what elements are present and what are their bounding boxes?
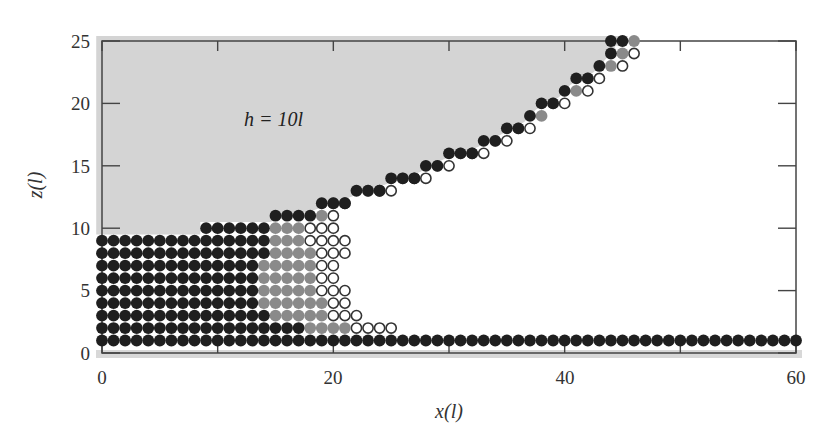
interstitial-highlight — [256, 295, 260, 299]
grey-bead — [316, 310, 328, 322]
black-bead — [131, 310, 143, 322]
black-bead — [108, 272, 120, 284]
interstitial-highlight — [210, 295, 214, 299]
open-bead — [317, 248, 327, 258]
black-bead — [200, 310, 212, 322]
open-bead — [328, 261, 338, 271]
black-bead — [154, 310, 166, 322]
grey-bead — [617, 48, 629, 60]
open-bead — [351, 323, 361, 333]
open-bead — [363, 323, 373, 333]
black-bead — [513, 122, 525, 134]
black-bead — [142, 335, 154, 347]
interstitial-highlight — [199, 332, 203, 336]
interstitial-highlight — [118, 332, 122, 336]
interstitial-highlight — [199, 258, 203, 262]
grey-bead — [281, 247, 293, 259]
black-bead — [177, 335, 189, 347]
y-axis-label: z(l) — [24, 171, 47, 199]
interstitial-highlight — [152, 283, 156, 287]
open-bead — [328, 298, 338, 308]
black-bead — [177, 235, 189, 247]
interstitial-highlight — [152, 295, 156, 299]
interstitial-highlight — [187, 258, 191, 262]
black-bead — [108, 310, 120, 322]
open-bead — [421, 173, 431, 183]
black-bead — [142, 272, 154, 284]
x-tick-60: 60 — [787, 367, 806, 388]
black-bead — [489, 335, 501, 347]
grey-bead — [327, 322, 339, 334]
interstitial-highlight — [291, 270, 295, 274]
black-bead — [96, 272, 108, 284]
black-bead — [593, 60, 605, 72]
grey-bead — [316, 210, 328, 222]
x-tick-40: 40 — [556, 367, 575, 388]
black-bead — [142, 285, 154, 297]
black-bead — [478, 335, 490, 347]
interstitial-highlight — [141, 332, 145, 336]
black-bead — [443, 335, 455, 347]
grey-bead — [270, 260, 282, 272]
black-bead — [189, 322, 201, 334]
black-bead — [212, 335, 224, 347]
black-bead — [258, 247, 270, 259]
interstitial-highlight — [164, 332, 168, 336]
interstitial-highlight — [233, 295, 237, 299]
black-bead — [223, 285, 235, 297]
black-bead — [142, 247, 154, 259]
black-bead — [246, 247, 258, 259]
black-bead — [166, 310, 178, 322]
interstitial-highlight — [314, 320, 318, 324]
interstitial-highlight — [245, 233, 249, 237]
black-bead — [327, 335, 339, 347]
grey-bead — [281, 222, 293, 234]
black-bead — [524, 110, 536, 122]
grey-bead — [293, 247, 305, 259]
black-bead — [258, 322, 270, 334]
black-bead — [119, 335, 131, 347]
interstitial-highlight — [141, 295, 145, 299]
open-bead — [317, 223, 327, 233]
black-bead — [246, 310, 258, 322]
grey-bead — [605, 60, 617, 72]
black-bead — [108, 247, 120, 259]
black-bead — [108, 322, 120, 334]
interstitial-highlight — [233, 283, 237, 287]
black-bead — [351, 185, 363, 197]
interstitial-highlight — [279, 245, 283, 249]
interstitial-highlight — [268, 283, 272, 287]
open-bead — [328, 236, 338, 246]
interstitial-highlight — [199, 320, 203, 324]
x-tick-labels: 0 20 40 60 — [97, 367, 805, 388]
interstitial-highlight — [152, 245, 156, 249]
black-bead — [177, 310, 189, 322]
black-bead — [316, 335, 328, 347]
open-bead — [328, 248, 338, 258]
grey-bead — [304, 310, 316, 322]
black-bead — [258, 222, 270, 234]
interstitial-highlight — [175, 332, 179, 336]
interstitial-highlight — [187, 283, 191, 287]
open-bead — [340, 298, 350, 308]
black-bead — [200, 335, 212, 347]
black-bead — [223, 335, 235, 347]
black-bead — [166, 235, 178, 247]
interstitial-highlight — [152, 270, 156, 274]
open-bead — [351, 310, 361, 320]
black-bead — [455, 335, 467, 347]
open-bead — [340, 286, 350, 296]
black-bead — [119, 260, 131, 272]
interstitial-highlight — [222, 270, 226, 274]
black-bead — [246, 235, 258, 247]
grey-bead — [293, 260, 305, 272]
black-bead — [119, 285, 131, 297]
interstitial-highlight — [291, 258, 295, 262]
interstitial-highlight — [106, 295, 110, 299]
black-bead — [166, 260, 178, 272]
black-bead — [189, 272, 201, 284]
black-bead — [142, 235, 154, 247]
grey-bead — [258, 260, 270, 272]
black-bead — [570, 73, 582, 85]
interstitial-highlight — [118, 283, 122, 287]
